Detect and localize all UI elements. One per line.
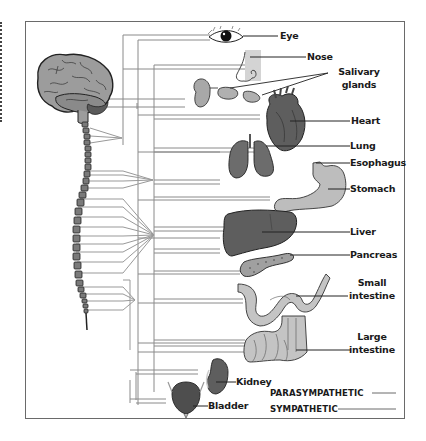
label-salivary-glands: Salivary glands: [330, 66, 388, 91]
label-heart: Heart: [351, 115, 380, 127]
label-salivary-line2: glands: [330, 79, 388, 91]
legend-parasympathetic: PARASYMPATHETIC: [270, 388, 364, 398]
legend-sympathetic: SYMPATHETIC: [270, 404, 338, 414]
label-eye: Eye: [280, 30, 299, 42]
nose-illustration: [236, 50, 306, 81]
label-lung: Lung: [350, 140, 376, 152]
diagram-stage: Eye Nose Salivary glands Heart Lung Esop…: [0, 0, 426, 441]
brain-illustration: [38, 54, 113, 123]
stomach-illustration: [274, 162, 350, 212]
label-kidney: Kidney: [236, 376, 272, 388]
heart-illustration: [267, 86, 350, 151]
label-esophagus: Esophagus: [350, 157, 406, 169]
bladder-illustration: [168, 382, 208, 418]
label-large-intestine: Large intestine: [346, 331, 398, 356]
kidney-illustration: [207, 359, 236, 394]
eye-illustration: [208, 26, 278, 42]
label-bladder: Bladder: [208, 400, 248, 412]
label-large-intestine-line2: intestine: [346, 344, 398, 356]
label-small-intestine-line2: intestine: [346, 290, 398, 302]
label-stomach: Stomach: [350, 183, 395, 195]
label-liver: Liver: [350, 226, 376, 238]
label-small-intestine: Small intestine: [346, 277, 398, 302]
label-pancreas: Pancreas: [350, 249, 397, 261]
pancreas-illustration: [240, 253, 350, 276]
label-nose: Nose: [307, 51, 333, 63]
label-salivary-line1: Salivary: [330, 66, 388, 78]
spinal-cord-illustration: [73, 122, 91, 330]
label-large-intestine-line1: Large: [346, 331, 398, 343]
liver-illustration: [223, 210, 350, 256]
label-small-intestine-line1: Small: [346, 277, 398, 289]
